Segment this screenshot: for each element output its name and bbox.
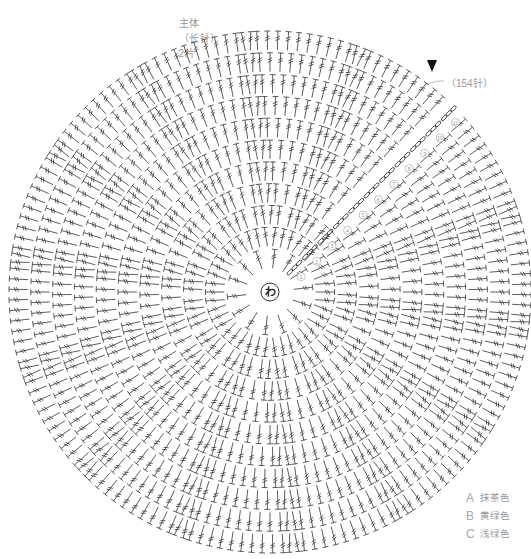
legend-label: 浅绿色 bbox=[480, 525, 510, 543]
legend-item-c: C 浅绿色 bbox=[466, 525, 510, 543]
legend-label: 抹茶色 bbox=[480, 489, 510, 507]
round-number: 2 bbox=[315, 259, 318, 265]
round-number: 1 bbox=[300, 274, 303, 280]
round-number: 3 bbox=[331, 243, 334, 249]
round-number: 7 bbox=[392, 181, 395, 187]
leader-line bbox=[418, 81, 444, 92]
round-number: 6 bbox=[377, 197, 380, 203]
round-number: 4 bbox=[346, 228, 349, 234]
start-marker-icon bbox=[427, 60, 437, 72]
legend-key: A bbox=[466, 489, 478, 507]
round-number: 11 bbox=[453, 120, 459, 126]
color-legend: A 抹茶色 B 黄绿色 C 浅绿色 bbox=[466, 489, 510, 543]
legend-key: C bbox=[466, 525, 478, 543]
legend-label: 黄绿色 bbox=[480, 507, 510, 525]
round-number: 9 bbox=[423, 151, 426, 157]
legend-key: B bbox=[466, 507, 478, 525]
magic-ring-label: わ bbox=[265, 286, 276, 299]
stitch-count-label: （154针） bbox=[446, 75, 493, 90]
legend-item-b: B 黄绿色 bbox=[466, 507, 510, 525]
legend-item-a: A 抹茶色 bbox=[466, 489, 510, 507]
round-number: 10 bbox=[437, 135, 443, 141]
round-number: 5 bbox=[361, 212, 364, 218]
round-number: 8 bbox=[408, 166, 411, 172]
